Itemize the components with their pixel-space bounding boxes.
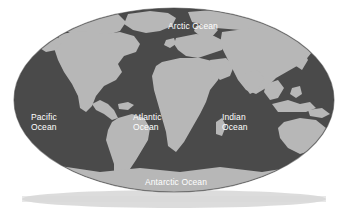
world-map-figure: Arctic Ocean Pacific Ocean Atlantic Ocea… [0,0,344,213]
ground-shadow-strip [22,196,326,202]
world-map-graphic [0,0,344,213]
